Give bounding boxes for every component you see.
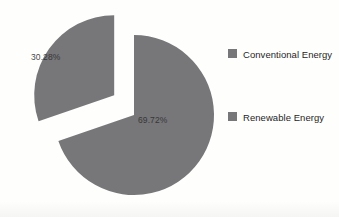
legend-item-renewable[interactable]: Renewable Energy	[228, 109, 339, 126]
slice-label-renewable: 69.72%	[138, 115, 167, 125]
legend-label-conventional: Conventional Energy	[243, 46, 332, 63]
pie-slice-conventional[interactable]	[34, 15, 114, 121]
chart-legend: Conventional Energy Renewable Energy	[228, 46, 339, 172]
pie-svg	[0, 0, 228, 217]
legend-item-conventional[interactable]: Conventional Energy	[228, 46, 339, 63]
legend-swatch-renewable	[228, 112, 237, 121]
legend-label-renewable: Renewable Energy	[243, 109, 324, 126]
legend-swatch-conventional	[228, 49, 237, 58]
pie-chart: 30.28% 69.72% Conventional Energy Renewa…	[0, 0, 339, 217]
pie-plot-area: 30.28% 69.72%	[0, 0, 228, 217]
slice-label-conventional: 30.28%	[31, 52, 60, 62]
